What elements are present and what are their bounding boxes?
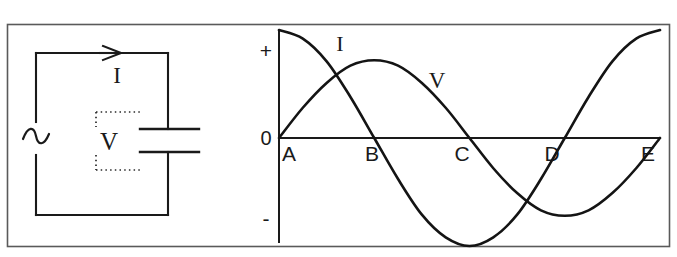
figure-canvas: I V + 0 - A B C D E I V	[0, 0, 677, 257]
ac-source-icon	[23, 129, 49, 143]
curve-label-current: I	[336, 31, 343, 56]
circuit-voltage-label: V	[100, 128, 118, 155]
y-tick-zero: 0	[260, 127, 271, 149]
page-top-text-sliver	[0, 0, 677, 16]
x-tick-b: B	[365, 142, 379, 165]
curve-label-voltage: V	[429, 68, 446, 93]
circuit-current-label: I	[113, 63, 121, 88]
x-tick-c: C	[454, 142, 469, 165]
physics-figure: I V + 0 - A B C D E I V	[0, 0, 677, 257]
y-tick-minus: -	[263, 207, 270, 230]
voltage-bracket-upper	[96, 112, 140, 127]
x-tick-a: A	[282, 142, 296, 165]
y-tick-plus: +	[260, 39, 272, 62]
waveform-graph: + 0 - A B C D E I V	[260, 30, 660, 246]
voltage-bracket-lower	[96, 155, 140, 170]
